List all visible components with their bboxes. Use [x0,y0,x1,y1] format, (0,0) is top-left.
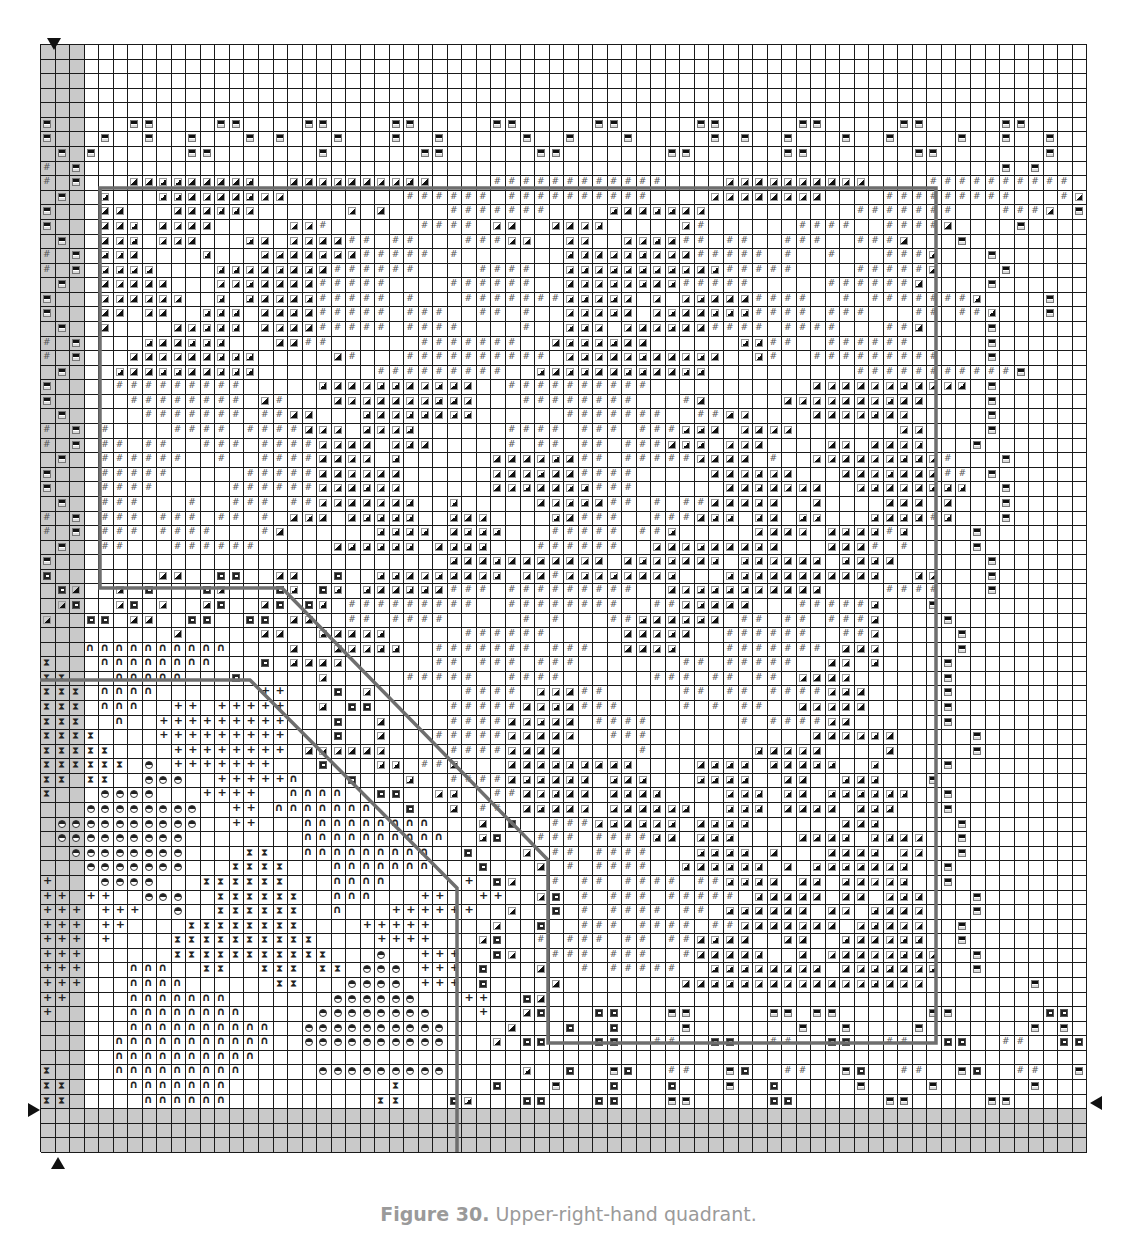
grid-cell: # [462,235,477,250]
hourglass-icon: ⧗ [87,731,94,741]
grid-cell: # [884,351,899,366]
grid-cell [201,337,216,352]
grid-cell [695,599,710,614]
grid-cell [1073,89,1088,104]
grid-cell [739,555,754,570]
grid-cell: ⧗ [230,949,245,964]
hash-icon: # [624,862,632,871]
half-circle-icon [87,805,95,813]
hash-icon: # [479,294,487,303]
grid-cell: # [579,920,594,935]
grid-cell [332,701,347,716]
grid-cell [971,322,986,337]
grid-cell [1044,205,1059,220]
hash-icon: # [552,177,560,186]
grid-cell [317,118,332,133]
triangle-icon [392,499,400,507]
dash-box-icon [988,353,996,361]
grid-cell [1044,759,1059,774]
grid-cell [390,1022,405,1037]
grid-cell [927,570,942,585]
triangle-icon [450,761,458,769]
grid-cell: ⧗ [201,920,216,935]
triangle-icon [726,586,734,594]
grid-cell [259,235,274,250]
grid-cell: # [579,541,594,556]
grid-cell [622,337,637,352]
grid-cell [826,584,841,599]
hash-icon: # [697,892,705,901]
grid-cell [1015,643,1030,658]
grid-cell [579,205,594,220]
grid-cell [419,497,434,512]
grid-cell [70,993,85,1008]
hash-icon: # [886,250,894,259]
grid-cell [85,584,100,599]
grid-cell: # [593,599,608,614]
arch-icon: ∩ [129,657,138,667]
grid-cell: # [753,322,768,337]
triangle-icon [334,178,342,186]
grid-cell [579,264,594,279]
grid-cell [608,322,623,337]
triangle-icon [813,557,821,565]
grid-cell [637,45,652,60]
triangle-icon [755,499,763,507]
triangle-icon [741,178,749,186]
triangle-icon [101,266,109,274]
grid-cell [695,351,710,366]
grid-cell [608,264,623,279]
triangle-icon [653,543,661,551]
grid-cell [1073,599,1088,614]
c-box-icon [319,586,327,594]
grid-cell: # [419,322,434,337]
plus-icon: + [261,730,270,740]
grid-cell [1073,395,1088,410]
grid-cell [811,512,826,527]
grid-cell [695,293,710,308]
grid-cell [303,220,318,235]
grid-cell [637,555,652,570]
grid-cell [913,993,928,1008]
grid-cell [1000,555,1015,570]
triangle-icon [508,470,516,478]
grid-cell [739,905,754,920]
triangle-icon [261,266,269,274]
triangle-icon [348,251,356,259]
grid-cell [826,818,841,833]
grid-cell [622,774,637,789]
grid-cell [840,818,855,833]
figure-caption: Figure 30. Upper-right-hand quadrant. [0,1203,1137,1225]
grid-cell [986,920,1001,935]
grid-cell [433,1065,448,1080]
grid-cell: # [579,891,594,906]
grid-cell [1058,1065,1073,1080]
grid-cell [274,1080,289,1095]
dash-box-icon [944,1009,952,1017]
grid-cell: # [433,307,448,322]
grid-cell [753,861,768,876]
triangle-icon [174,178,182,186]
grid-cell: # [579,686,594,701]
hash-icon: # [1031,1066,1039,1075]
half-circle-icon [145,849,153,857]
grid-cell [288,45,303,60]
grid-cell [884,803,899,818]
triangle-icon [726,907,734,915]
hash-icon: # [610,717,618,726]
grid-cell [942,788,957,803]
dash-box-icon [958,645,966,653]
grid-cell [898,847,913,862]
grid-cell [724,60,739,75]
triangle-icon [523,1009,531,1017]
grid-cell [739,409,754,424]
grid-cell [956,701,971,716]
triangle-icon [450,790,458,798]
hash-icon: # [523,177,531,186]
hash-icon: # [900,221,908,230]
grid-cell [797,803,812,818]
hash-icon: # [435,367,443,376]
hash-icon: # [958,192,966,201]
arch-icon: ∩ [216,1007,225,1017]
grid-cell [753,934,768,949]
